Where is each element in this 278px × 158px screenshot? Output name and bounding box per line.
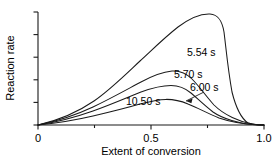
- series-label-5-70: 5.70 s: [174, 68, 203, 80]
- x-axis-ticks: [38, 125, 264, 130]
- x-tick-label-1-0: 1.0: [256, 132, 271, 144]
- series-label-6-00: 6.00 s: [190, 81, 219, 93]
- chart-figure: 0 0.5 1.0 Extent of conversion Reaction …: [0, 0, 278, 158]
- series-label-10-50: 10.50 s: [126, 95, 160, 107]
- y-axis-title: Reaction rate: [4, 35, 16, 100]
- y-axis-ticks: [34, 12, 39, 125]
- x-axis-title: Extent of conversion: [101, 145, 201, 157]
- curve-5-54: [38, 14, 264, 125]
- series-label-5-54: 5.54 s: [187, 46, 216, 58]
- x-tick-label-0: 0: [35, 132, 41, 144]
- axis-lines: [38, 12, 264, 125]
- x-tick-label-0-5: 0.5: [143, 132, 158, 144]
- reaction-rate-plot: 0 0.5 1.0 Extent of conversion Reaction …: [0, 0, 278, 158]
